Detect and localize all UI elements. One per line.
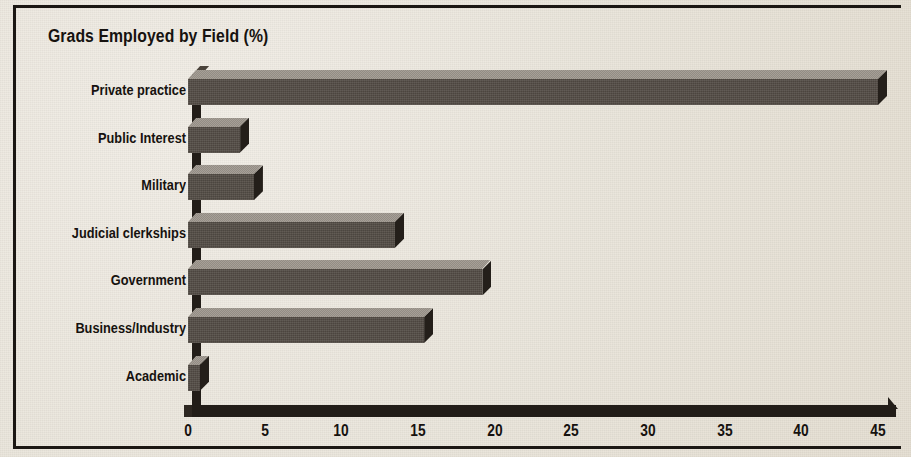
x-axis-end-cap bbox=[888, 397, 898, 409]
bar-front-face bbox=[188, 269, 482, 295]
x-axis-tick-label: 10 bbox=[334, 422, 349, 440]
x-axis-tick-label: 30 bbox=[640, 422, 655, 440]
bar-front-face bbox=[188, 222, 395, 248]
bar-front-face bbox=[188, 127, 240, 153]
bar-top-face bbox=[188, 70, 886, 79]
x-axis-tick-label: 35 bbox=[717, 422, 732, 440]
bar bbox=[188, 365, 200, 391]
x-axis-tick-label: 0 bbox=[184, 422, 192, 440]
bar bbox=[188, 127, 240, 153]
y-axis-label: Public Interest bbox=[54, 130, 186, 146]
bar-front-face bbox=[188, 365, 200, 391]
bar-top-face bbox=[188, 118, 248, 127]
bar-top-face bbox=[188, 260, 490, 269]
y-axis-label: Judicial clerkships bbox=[54, 225, 186, 241]
x-axis-tick-label: 5 bbox=[261, 422, 269, 440]
bar bbox=[188, 269, 482, 295]
bar-front-face bbox=[188, 174, 254, 200]
y-axis-label: Academic bbox=[54, 368, 186, 384]
bar bbox=[188, 317, 424, 343]
chart-plot-area: Grads Employed by Field (%) Private prac… bbox=[16, 8, 901, 446]
y-axis-label: Private practice bbox=[54, 82, 186, 98]
bar bbox=[188, 79, 878, 105]
x-axis bbox=[192, 405, 896, 417]
x-axis-tick-label: 15 bbox=[410, 422, 425, 440]
bar-top-face bbox=[188, 165, 262, 174]
y-axis-label: Business/Industry bbox=[54, 320, 186, 336]
bar bbox=[188, 222, 395, 248]
bar-front-face bbox=[188, 317, 424, 343]
bar-top-face bbox=[188, 213, 403, 222]
x-axis-tick-label: 40 bbox=[794, 422, 809, 440]
y-axis-label: Military bbox=[54, 177, 186, 193]
y-axis-label-group: Private practicePublic InterestMilitaryJ… bbox=[24, 8, 186, 446]
x-axis-tick-label: 20 bbox=[487, 422, 502, 440]
x-axis-tick-label: 45 bbox=[870, 422, 885, 440]
y-axis-label: Government bbox=[54, 272, 186, 288]
bar bbox=[188, 174, 254, 200]
bar-front-face bbox=[188, 79, 878, 105]
bar-top-face bbox=[188, 308, 432, 317]
chart-frame: Grads Employed by Field (%) Private prac… bbox=[13, 5, 901, 449]
x-axis-tick-label: 25 bbox=[564, 422, 579, 440]
